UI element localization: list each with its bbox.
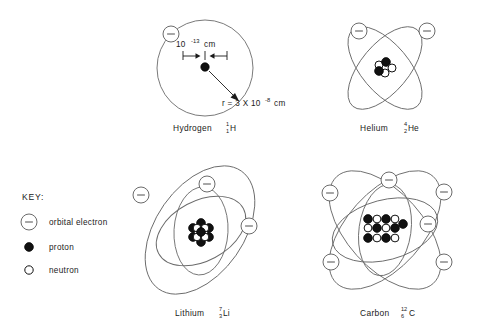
nucleus-size-value: 10 (176, 40, 186, 49)
carbon-electron (436, 254, 452, 270)
hydrogen-proton (201, 63, 209, 71)
lithium-proton (197, 228, 206, 237)
key-title: KEY: (22, 192, 44, 202)
helium-nucleus (375, 58, 396, 77)
key-legend: KEY: orbital electron proton neutron (21, 192, 108, 275)
helium-name: Helium (360, 123, 388, 133)
carbon-neutron (391, 215, 399, 223)
carbon-name: Carbon (360, 308, 390, 318)
carbon-electron (322, 185, 338, 201)
lithium-caption: Lithium 7 3 Li (175, 306, 230, 319)
carbon-proton (382, 215, 391, 224)
key-label-neutron: neutron (49, 266, 79, 275)
carbon-neutron (382, 224, 390, 232)
lithium-name: Lithium (175, 308, 204, 318)
helium-symbol: He (408, 123, 419, 133)
radius-unit: cm (274, 99, 286, 108)
carbon-caption: Carbon 12 6 C (360, 306, 415, 319)
neutron-symbol (25, 266, 33, 274)
radius-arrow-icon (209, 71, 235, 97)
carbon-electron (420, 216, 436, 232)
lithium-electron (199, 176, 215, 192)
carbon-neutron (391, 234, 399, 242)
helium-neutron (388, 64, 396, 72)
helium-electron (351, 23, 367, 39)
helium-electron (419, 23, 435, 39)
atom-hydrogen: 10 -13 cm r = 3 X 10 -8 cm Hydroge (157, 20, 286, 134)
carbon-neutron (373, 215, 381, 223)
atom-helium: Helium 4 2 He (334, 14, 435, 134)
hydrogen-caption: Hydrogen 1 1 H (173, 121, 236, 134)
carbon-proton (364, 234, 373, 243)
carbon-proton (373, 224, 382, 233)
hydrogen-atomic-number: 1 (226, 128, 229, 134)
key-label-orbital-electron: orbital electron (49, 218, 108, 227)
dimension-arrows-icon (183, 51, 227, 60)
key-item-proton: proton (25, 243, 75, 252)
key-item-orbital-electron: orbital electron (21, 214, 108, 230)
atom-lithium: Lithium 7 3 Li (123, 146, 278, 319)
carbon-proton (391, 224, 400, 233)
hydrogen-mass-number: 1 (226, 121, 229, 127)
hydrogen-symbol: H (230, 123, 236, 133)
hydrogen-name: Hydrogen (173, 123, 212, 133)
carbon-neutron (373, 234, 381, 242)
carbon-atomic-number: 6 (401, 313, 404, 319)
lithium-nucleus (189, 219, 214, 247)
proton-symbol (25, 243, 34, 252)
key-label-proton: proton (49, 243, 74, 252)
nucleus-size-unit: cm (204, 40, 216, 49)
carbon-nucleus (364, 215, 408, 243)
carbon-proton (399, 220, 408, 229)
carbon-mass-number: 12 (401, 306, 407, 312)
carbon-neutron (364, 224, 372, 232)
atom-carbon: Carbon 12 6 C (309, 151, 462, 319)
helium-mass-number: 4 (404, 121, 407, 127)
carbon-electron (381, 172, 397, 188)
carbon-proton (364, 215, 373, 224)
atomic-structure-diagram: 10 -13 cm r = 3 X 10 -8 cm Hydroge (0, 0, 482, 335)
lithium-mass-number: 7 (219, 306, 222, 312)
helium-proton (375, 67, 384, 76)
carbon-symbol: C (409, 308, 415, 318)
helium-caption: Helium 4 2 He (360, 121, 419, 134)
radius-exponent: -8 (265, 97, 270, 103)
carbon-electron (436, 184, 452, 200)
hydrogen-nucleus-size-annotation: 10 -13 cm (176, 38, 227, 60)
helium-atomic-number: 2 (404, 128, 407, 134)
lithium-electron (133, 187, 149, 203)
carbon-proton (382, 234, 391, 243)
lithium-electron (241, 218, 257, 234)
lithium-symbol: Li (223, 308, 230, 318)
carbon-electron (323, 254, 339, 270)
hydrogen-radius-annotation: r = 3 X 10 -8 cm (209, 71, 286, 108)
lithium-atomic-number: 3 (219, 313, 222, 319)
key-item-neutron: neutron (25, 266, 79, 275)
nucleus-size-exponent: -13 (191, 38, 199, 44)
radius-label: r = 3 X 10 (222, 99, 261, 108)
